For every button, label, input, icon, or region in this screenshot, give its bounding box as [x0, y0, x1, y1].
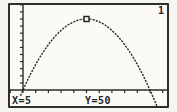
- function-number-label: 1: [158, 5, 164, 16]
- trace-y-readout: Y=50: [85, 95, 111, 106]
- graph-plot: [10, 5, 167, 106]
- calculator-screenshot: { "screen": { "function_number_label": "…: [0, 0, 177, 112]
- calculator-screen-frame: 1 X=5 Y=50: [8, 3, 169, 108]
- trace-cursor-icon: [84, 17, 89, 22]
- trace-x-readout: X=5: [12, 95, 32, 106]
